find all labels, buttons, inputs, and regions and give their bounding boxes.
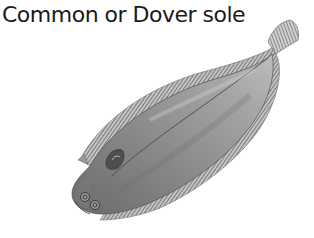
eye-upper-icon [81,193,90,202]
sole-fish-illustration [0,0,314,238]
eye-lower-icon [91,201,100,210]
